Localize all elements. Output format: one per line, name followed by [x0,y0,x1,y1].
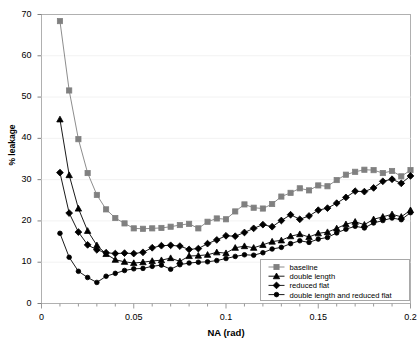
data-point-marker [196,260,201,265]
data-point-marker [57,19,62,24]
data-point-marker [131,226,136,231]
data-point-marker [274,292,279,297]
data-point-marker [389,168,394,173]
data-point-marker [362,226,367,231]
data-point-marker [334,231,339,236]
data-point-marker [205,219,210,224]
data-point-marker [353,169,358,174]
y-tick-label: 30 [4,174,32,184]
x-tick-label: 0.05 [114,312,154,322]
data-point-marker [122,221,127,226]
data-point-marker [288,241,293,246]
data-point-marker [390,216,395,221]
data-point-marker [131,267,136,272]
chart-figure: baselinedouble lengthreduced flatdouble … [0,0,419,346]
data-point-marker [214,258,219,263]
chart-legend: baselinedouble lengthreduced flatdouble … [261,260,410,301]
data-point-marker [270,201,275,206]
data-point-marker [325,235,330,240]
data-point-marker [168,267,173,272]
data-point-marker [371,168,376,173]
data-point-marker [307,240,312,245]
data-point-marker [178,262,183,267]
leakage-vs-na-line-chart: baselinedouble lengthreduced flatdouble … [0,0,419,346]
data-point-marker [67,255,72,260]
data-point-marker [214,216,219,221]
data-point-marker [58,231,63,236]
data-point-marker [76,137,81,142]
y-tick-label: 50 [4,91,32,101]
data-point-marker [297,186,302,191]
data-point-marker [150,264,155,269]
data-point-marker [159,225,164,230]
data-point-marker [325,184,330,189]
data-point-marker [95,280,100,285]
data-point-marker [187,261,192,266]
data-point-marker [168,224,173,229]
data-point-marker [122,268,127,273]
data-point-marker [223,217,228,222]
data-point-marker [251,253,256,258]
data-point-marker [187,221,192,226]
y-tick-label: 40 [4,132,32,142]
data-point-marker [251,205,256,210]
data-point-marker [85,275,90,280]
data-point-marker [113,215,118,220]
y-tick-label: 60 [4,50,32,60]
y-tick-label: 10 [4,256,32,266]
data-point-marker [399,174,404,179]
data-point-marker [224,256,229,261]
legend-label: double length and reduced flat [290,291,393,300]
data-point-marker [316,183,321,188]
data-point-marker [298,238,303,243]
data-point-marker [141,266,146,271]
data-point-marker [353,224,358,229]
data-point-marker [94,192,99,197]
y-tick-label: 0 [4,298,32,308]
data-point-marker [334,177,339,182]
legend-label: baseline [290,263,318,272]
x-tick-label: 0.1 [206,312,246,322]
data-point-marker [279,245,284,250]
data-point-marker [140,226,145,231]
data-point-marker [306,188,311,193]
data-point-marker [274,264,279,269]
data-point-marker [362,167,367,172]
legend-label: double length [290,272,336,281]
data-point-marker [270,247,275,252]
y-tick-label: 70 [4,9,32,19]
data-point-marker [261,250,266,255]
legend-label: reduced flat [290,281,331,290]
data-point-marker [67,88,72,93]
data-point-marker [196,226,201,231]
data-point-marker [159,263,164,268]
data-point-marker [381,218,386,223]
data-point-marker [242,202,247,207]
data-point-marker [150,226,155,231]
x-tick-label: 0.15 [298,312,338,322]
data-point-marker [399,217,404,222]
data-point-marker [343,172,348,177]
data-point-marker [371,221,376,226]
data-point-marker [205,260,210,265]
data-point-marker [288,190,293,195]
data-point-marker [85,170,90,175]
data-point-marker [408,210,413,215]
y-tick-label: 20 [4,215,32,225]
data-point-marker [316,237,321,242]
data-point-marker [233,209,238,214]
data-point-marker [233,254,238,259]
data-point-marker [113,271,118,276]
data-point-marker [177,222,182,227]
x-tick-label: 0.2 [391,312,419,322]
data-point-marker [104,274,109,279]
data-point-marker [76,269,81,274]
data-point-marker [242,252,247,257]
data-point-marker [260,206,265,211]
data-point-marker [103,207,108,212]
data-point-marker [279,194,284,199]
x-axis-label: NA (rad) [41,327,411,338]
data-point-marker [380,170,385,175]
x-tick-label: 0 [22,312,62,322]
data-point-marker [344,227,349,232]
